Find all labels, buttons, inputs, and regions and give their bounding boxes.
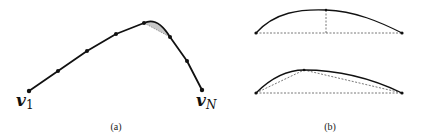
figure-canvas: v1 vN (a) (b) <box>0 0 424 139</box>
polyline-curve <box>29 21 202 91</box>
label-v1: v1 <box>16 90 34 112</box>
caption-b: (b) <box>324 121 336 133</box>
label-vN: vN <box>196 90 217 112</box>
chord-left-dashed <box>256 70 304 93</box>
panel-b-bottom: (b) <box>254 69 403 133</box>
chord-right-dashed <box>304 70 402 93</box>
panel-b-top <box>254 9 403 35</box>
panel-a: v1 vN (a) <box>16 21 217 133</box>
vertex-points <box>27 21 204 93</box>
arc-curve <box>256 10 402 33</box>
caption-a: (a) <box>110 121 121 133</box>
arc-curve <box>256 70 402 93</box>
